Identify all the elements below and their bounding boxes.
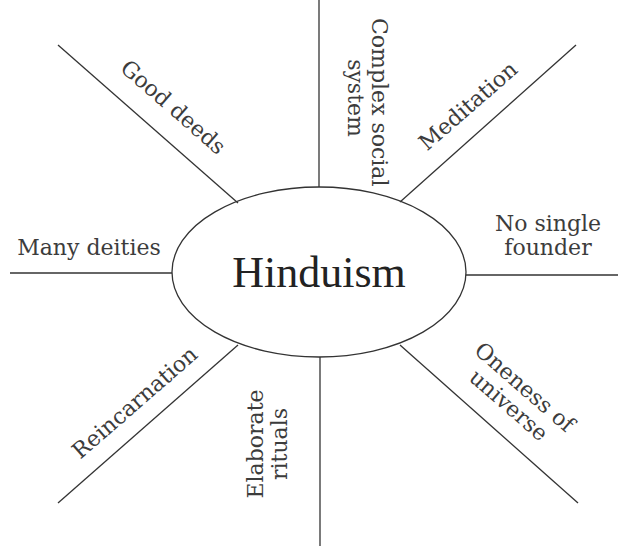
spoke-line-bottom-left	[58, 345, 238, 503]
spoke-line-top-right	[400, 45, 576, 202]
spoke-label-top: Complex social system	[339, 18, 391, 178]
spoke-label-left: Many deities	[14, 236, 164, 262]
spoke-label-top-line2: system	[343, 18, 367, 178]
spoke-label-bottom-line2: rituals	[268, 389, 292, 499]
spoke-label-left-text: Many deities	[17, 235, 161, 260]
spoke-label-top-line1: Complex social	[367, 18, 391, 178]
center-label: Hinduism	[172, 187, 466, 357]
spoke-label-bottom-line1: Elaborate	[244, 389, 268, 499]
spoke-label-bottom: Elaborate rituals	[244, 389, 296, 499]
hinduism-concept-web: Hinduism Complex social system Meditatio…	[0, 0, 618, 546]
spoke-label-right-line1: No single	[478, 212, 618, 236]
spoke-label-right-line2: founder	[478, 236, 618, 260]
spoke-label-right: No single founder	[478, 212, 618, 264]
